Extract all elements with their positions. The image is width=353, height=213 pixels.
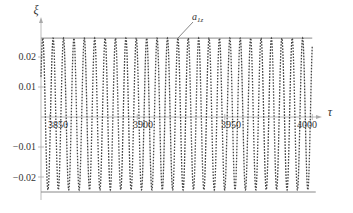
y-axis-label: ξ (33, 3, 39, 17)
x-tick-label: 3950 (221, 119, 241, 130)
annotation-subscript: 1z (197, 16, 204, 24)
y-tick-label: 0.01 (19, 81, 37, 92)
y-tick-label: −0.01 (13, 141, 36, 152)
annotation-label: a1z (192, 11, 204, 24)
annotation-leader-line (178, 22, 193, 38)
x-tick-label: 3900 (133, 119, 153, 130)
x-tick-label: 4000 (297, 119, 317, 130)
x-axis-label: τ (328, 105, 333, 119)
x-tick-label: 3850 (48, 119, 68, 130)
y-tick-label: −0.02 (13, 172, 36, 183)
y-axis-arrow (39, 17, 43, 23)
oscillation-curve (41, 38, 312, 190)
oscillation-chart: 0.02 0.01 −0.01 −0.02 3850 3900 3950 400… (0, 0, 353, 213)
y-tick-label: 0.02 (19, 51, 37, 62)
